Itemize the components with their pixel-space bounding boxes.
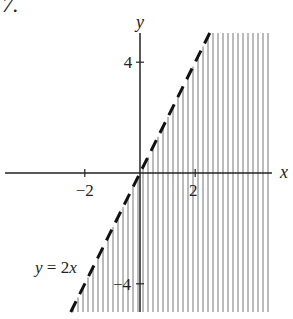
x-tick-label: −2 — [76, 181, 94, 200]
y-tick-label: 4 — [124, 53, 133, 72]
equation-part: = 2 — [43, 258, 70, 277]
y-axis-label: y — [134, 12, 144, 32]
equation-part: x — [68, 258, 77, 277]
inequality-graph: xy−224−4y = 2x — [0, 0, 293, 319]
equation-part: y — [33, 258, 43, 277]
x-axis-label: x — [279, 162, 288, 182]
y-tick-label: −4 — [113, 275, 132, 294]
x-tick-label: 2 — [189, 181, 198, 200]
axis-labels: xy−224−4y = 2x — [33, 12, 288, 294]
boundary-equation-label: y = 2x — [33, 258, 77, 277]
